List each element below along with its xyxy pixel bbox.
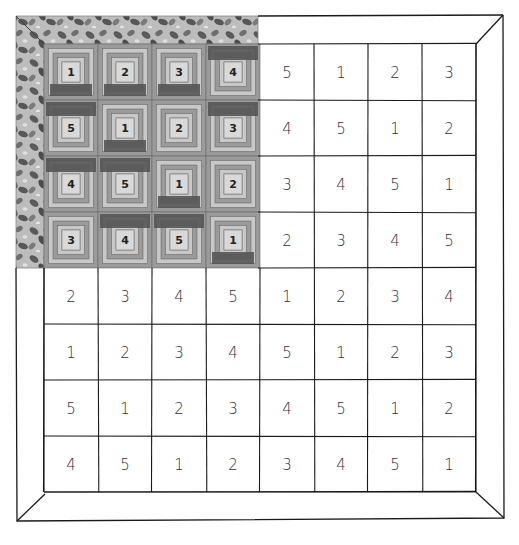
quilt-block-number: 1 — [67, 66, 75, 79]
quilt-block-number: 2 — [175, 122, 183, 135]
cell-number: 3 — [444, 344, 454, 362]
cell-number: 5 — [390, 456, 400, 474]
quilt-diagram: 1234512351234512451234513451234523451234… — [0, 0, 519, 545]
cell-number: 3 — [174, 344, 184, 362]
cell-number: 4 — [66, 456, 76, 474]
cell-number: 2 — [444, 400, 454, 418]
cell-number: 4 — [336, 176, 346, 194]
cell-number: 5 — [336, 400, 346, 418]
grid-line-horizontal — [44, 324, 476, 325]
cell-number: 4 — [444, 288, 454, 306]
cell-number: 2 — [282, 232, 292, 250]
quilt-block-number: 5 — [175, 234, 183, 247]
grid-line-horizontal — [258, 43, 476, 44]
quilt-block-number: 4 — [67, 178, 75, 191]
cell-number: 1 — [444, 456, 454, 474]
quilt-block-number: 3 — [229, 122, 237, 135]
cell-number: 5 — [336, 120, 346, 138]
quilt-block-number: 4 — [121, 234, 129, 247]
quilt-block-number: 3 — [175, 66, 183, 79]
quilted-quadrant — [44, 44, 260, 268]
cell-number: 1 — [120, 400, 130, 418]
cell-number: 2 — [390, 344, 400, 362]
cell-number: 5 — [228, 288, 238, 306]
cell-number: 2 — [228, 456, 238, 474]
cell-number: 5 — [282, 64, 292, 82]
grid-line-horizontal — [44, 379, 476, 380]
cell-number: 2 — [120, 344, 130, 362]
cell-number: 5 — [444, 232, 454, 250]
cell-number: 4 — [228, 344, 238, 362]
quilt-block-number: 3 — [67, 234, 75, 247]
quilt-block-number: 1 — [229, 234, 237, 247]
grid-line-horizontal — [258, 100, 476, 101]
cell-number: 1 — [282, 288, 292, 306]
grid-line-horizontal — [258, 267, 476, 268]
cell-number: 3 — [228, 400, 238, 418]
quilt-block-number: 2 — [121, 66, 129, 79]
cell-number: 2 — [390, 64, 400, 82]
quilt-block-number: 5 — [67, 122, 75, 135]
cell-number: 2 — [66, 288, 76, 306]
quilt-block-number: 1 — [121, 122, 129, 135]
quilt-block-number: 2 — [229, 178, 237, 191]
quilt-block-number: 1 — [175, 178, 183, 191]
cell-number: 2 — [336, 288, 346, 306]
cell-number: 3 — [282, 456, 292, 474]
cell-number: 1 — [390, 400, 400, 418]
cell-number: 1 — [444, 176, 454, 194]
quilt-block-number: 4 — [229, 66, 237, 79]
cell-number: 2 — [444, 120, 454, 138]
grid-line-horizontal — [258, 212, 476, 213]
cell-number: 3 — [282, 176, 292, 194]
cell-number: 3 — [336, 232, 346, 250]
cell-number: 4 — [282, 400, 292, 418]
cell-number: 4 — [282, 120, 292, 138]
cell-number: 1 — [390, 120, 400, 138]
cell-number: 5 — [390, 176, 400, 194]
cell-number: 5 — [120, 456, 130, 474]
cell-number: 1 — [336, 344, 346, 362]
cell-number: 1 — [66, 344, 76, 362]
cell-number: 4 — [336, 456, 346, 474]
cell-number: 4 — [390, 232, 400, 250]
cell-number: 2 — [174, 400, 184, 418]
cell-number: 3 — [390, 288, 400, 306]
quilt-block-number: 5 — [121, 178, 129, 191]
cell-number: 1 — [336, 64, 346, 82]
cell-number: 5 — [66, 400, 76, 418]
grid-line-horizontal — [44, 436, 476, 437]
cell-number: 1 — [174, 456, 184, 474]
cell-number: 3 — [444, 64, 454, 82]
cell-number: 4 — [174, 288, 184, 306]
grid-line-horizontal — [258, 155, 476, 156]
cell-number: 5 — [282, 344, 292, 362]
cell-number: 3 — [120, 288, 130, 306]
